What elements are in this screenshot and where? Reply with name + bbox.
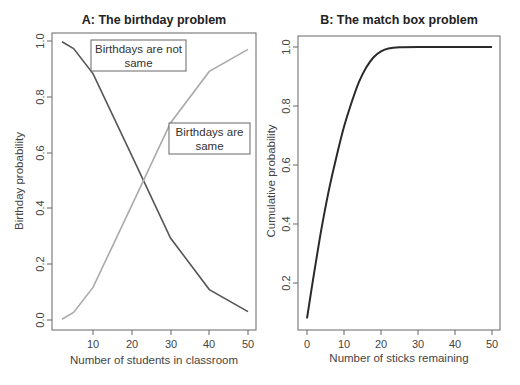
x-axis-label: Number of students in classroom [70,354,238,366]
y-tick-label: 0.0 [34,312,46,327]
chart-title: B: The match box problem [320,13,478,27]
line-same [62,49,248,319]
annotation-not-same: Birthdays are not same [91,40,186,71]
chart-birthday-problem: A: The birthday problem 0.0 0.2 0.4 0.6 … [13,13,256,366]
x-axis-label: Number of sticks remaining [329,352,468,364]
annotation-line: Birthdays are [176,126,244,138]
x-tick-label: 30 [165,338,177,350]
line-not-same [62,42,248,312]
plot-frame [298,36,500,330]
x-tick-label: 50 [486,338,498,350]
y-tick-labels: 0.0 0.2 0.4 0.6 0.8 1.0 [34,33,46,327]
x-tick-label: 30 [412,338,424,350]
y-tick-label: 0.4 [280,216,292,231]
annotation-line: same [195,140,223,152]
x-tick-labels: 0 10 20 30 40 50 [304,338,498,350]
y-tick-label: 0.8 [280,98,292,113]
y-tick-labels: 0.2 0.4 0.6 0.8 1.0 [280,39,292,290]
x-tick-label: 40 [449,338,461,350]
plot-frame [52,33,256,330]
x-tick-label: 10 [87,338,99,350]
annotation-same: Birthdays are same [169,123,250,154]
annotation-line: same [124,57,152,69]
annotation-line: Birthdays are not [95,43,183,55]
x-tick-label: 0 [304,338,310,350]
y-axis [47,41,52,320]
y-tick-label: 0.8 [34,89,46,104]
chart-title: A: The birthday problem [82,13,226,27]
y-tick-label: 0.6 [34,145,46,160]
y-tick-label: 1.0 [34,33,46,48]
x-tick-label: 20 [126,338,138,350]
line-cumulative-probability [307,47,492,318]
y-tick-label: 1.0 [280,39,292,54]
y-tick-label: 0.2 [34,256,46,271]
x-tick-labels: 10 20 30 40 50 [87,338,254,350]
x-axis [93,330,248,335]
figure: A: The birthday problem 0.0 0.2 0.4 0.6 … [0,0,520,385]
chart-match-box-problem: B: The match box problem 0.2 0.4 0.6 0.8… [265,13,500,364]
y-axis-label: Birthday probability [13,132,25,230]
x-tick-label: 10 [338,338,350,350]
y-tick-label: 0.2 [280,275,292,290]
x-tick-label: 40 [203,338,215,350]
y-tick-label: 0.6 [280,157,292,172]
x-axis [307,330,492,335]
x-tick-label: 20 [375,338,387,350]
x-tick-label: 50 [242,338,254,350]
y-axis [293,47,298,283]
y-tick-label: 0.4 [34,200,46,215]
y-axis-label: Cumulative probability [265,124,277,237]
